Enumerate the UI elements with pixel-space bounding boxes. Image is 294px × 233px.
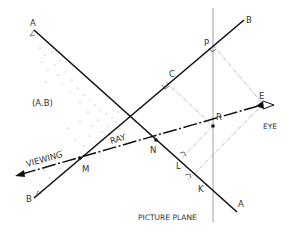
label-p: P — [204, 38, 209, 48]
label-viewing: VIEWING — [25, 149, 64, 169]
label-region: (A.B) — [32, 98, 53, 108]
arrowhead-icon — [15, 170, 25, 177]
label-b-bottom: B — [26, 194, 32, 204]
label-picture-plane: PICTURE PLANE — [138, 213, 197, 222]
line-b — [34, 20, 244, 198]
label-a-top: A — [30, 18, 36, 28]
viewing-ray — [22, 106, 258, 174]
construction-lines — [166, 45, 263, 180]
label-m: M — [82, 164, 89, 174]
label-r: R — [216, 112, 222, 122]
eye-icon — [256, 101, 274, 109]
point-r — [211, 124, 215, 128]
label-e: E — [259, 91, 264, 101]
label-l: L — [176, 161, 181, 171]
label-n: N — [150, 145, 156, 155]
label-k: K — [198, 184, 204, 194]
point-n — [154, 138, 158, 142]
label-b-top: B — [246, 15, 252, 25]
label-eye: EYE — [263, 122, 277, 131]
perspective-diagram: A A B B (A.B) P C R E EYE N L K M VIEWIN… — [0, 0, 294, 233]
label-a-bottom: A — [238, 199, 244, 209]
label-c: C — [169, 69, 175, 79]
point-m — [78, 156, 82, 160]
